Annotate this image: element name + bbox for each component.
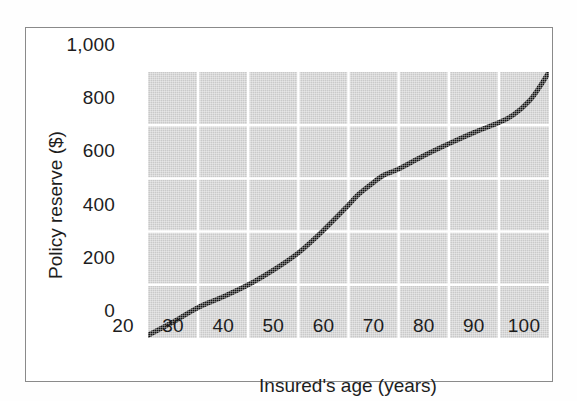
figure-root: 2030405060708090100 02004006008001,000 I…	[0, 0, 577, 401]
x-tick-label: 90	[463, 315, 485, 337]
x-tick-label: 30	[162, 315, 184, 337]
y-axis-title: Policy reserve ($)	[45, 131, 67, 279]
x-tick-label: 50	[263, 315, 285, 337]
y-tick-label: 600	[26, 140, 115, 162]
x-tick-label: 70	[363, 315, 385, 337]
plot-canvas	[148, 72, 549, 338]
y-tick-label: 800	[26, 87, 115, 109]
y-tick-label: 1,000	[26, 34, 115, 56]
figure-border: 2030405060708090100 02004006008001,000 I…	[25, 27, 553, 382]
x-axis-title: Insured's age (years)	[259, 375, 437, 397]
x-tick-label: 40	[212, 315, 234, 337]
x-tick-label: 20	[112, 315, 134, 337]
y-tick-label: 200	[26, 247, 115, 269]
y-tick-label: 0	[26, 300, 115, 322]
x-tick-label: 100	[508, 315, 540, 337]
x-tick-label: 60	[313, 315, 335, 337]
x-tick-label: 80	[413, 315, 435, 337]
y-tick-label: 400	[26, 194, 115, 216]
plot-area	[148, 72, 549, 338]
